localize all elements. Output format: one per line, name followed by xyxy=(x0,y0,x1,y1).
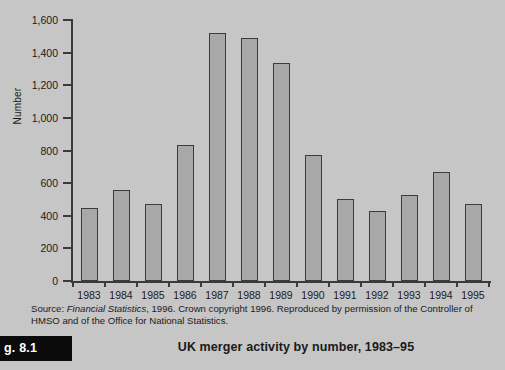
bar xyxy=(401,195,418,281)
x-tick-mark xyxy=(392,281,394,287)
bar xyxy=(177,145,194,281)
x-axis-line xyxy=(71,281,491,283)
bar xyxy=(305,155,322,281)
x-tick-label: 1986 xyxy=(169,290,201,301)
y-tick-label: 1,600 xyxy=(0,15,58,25)
x-tick-label: 1994 xyxy=(425,290,457,301)
y-tick-label: 1,000 xyxy=(0,113,58,123)
y-tick-mark xyxy=(63,215,73,217)
y-tick-label: 200 xyxy=(0,243,58,253)
y-tick-mark xyxy=(63,52,73,54)
bar xyxy=(241,38,258,281)
x-tick-mark xyxy=(456,281,458,287)
y-tick-mark xyxy=(63,117,73,119)
x-tick-mark xyxy=(488,281,490,287)
bar xyxy=(81,208,98,281)
x-tick-label: 1984 xyxy=(105,290,137,301)
x-tick-label: 1995 xyxy=(457,290,489,301)
x-tick-mark xyxy=(328,281,330,287)
y-tick-label: 800 xyxy=(0,146,58,156)
x-tick-mark xyxy=(168,281,170,287)
y-tick-label: 600 xyxy=(0,178,58,188)
y-axis-line xyxy=(71,20,73,283)
y-tick-mark xyxy=(63,247,73,249)
y-tick-label: 1,400 xyxy=(0,48,58,58)
y-tick-mark xyxy=(63,19,73,21)
x-tick-mark xyxy=(72,281,74,287)
bar xyxy=(273,63,290,281)
x-tick-label: 1989 xyxy=(265,290,297,301)
source-prefix: Source: xyxy=(31,303,67,314)
x-tick-mark xyxy=(296,281,298,287)
x-tick-mark xyxy=(104,281,106,287)
x-tick-label: 1983 xyxy=(73,290,105,301)
bar xyxy=(113,190,130,281)
x-tick-label: 1990 xyxy=(297,290,329,301)
x-tick-label: 1985 xyxy=(137,290,169,301)
x-tick-label: 1993 xyxy=(393,290,425,301)
x-tick-mark xyxy=(264,281,266,287)
y-tick-mark xyxy=(63,182,73,184)
x-tick-mark xyxy=(136,281,138,287)
bar xyxy=(145,204,162,281)
y-tick-label: 1,200 xyxy=(0,80,58,90)
x-tick-label: 1988 xyxy=(233,290,265,301)
x-tick-mark xyxy=(200,281,202,287)
x-tick-mark xyxy=(360,281,362,287)
x-tick-mark xyxy=(232,281,234,287)
bar xyxy=(433,172,450,281)
bar xyxy=(209,33,226,281)
x-tick-label: 1987 xyxy=(201,290,233,301)
y-tick-label: 400 xyxy=(0,211,58,221)
bar xyxy=(337,199,354,281)
y-tick-mark xyxy=(63,84,73,86)
caption-strip: g. 8.1 UK merger activity by number, 198… xyxy=(0,336,505,366)
figure-number-tag: g. 8.1 xyxy=(0,336,72,361)
bar xyxy=(465,204,482,281)
source-publication: Financial Statistics xyxy=(67,303,146,314)
bar xyxy=(369,211,386,281)
x-tick-mark xyxy=(424,281,426,287)
source-note: Source: Financial Statistics, 1996. Crow… xyxy=(31,303,486,328)
x-tick-label: 1991 xyxy=(329,290,361,301)
y-tick-mark xyxy=(63,150,73,152)
figure-caption-title: UK merger activity by number, 1983–95 xyxy=(131,340,461,354)
y-tick-label: 0 xyxy=(0,276,58,286)
bar-chart-figure: Number 02004006008001,0001,2001,4001,600… xyxy=(0,0,505,296)
x-tick-label: 1992 xyxy=(361,290,393,301)
